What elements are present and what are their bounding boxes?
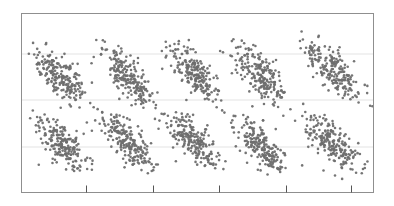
data-point	[52, 67, 55, 70]
data-point	[35, 57, 38, 60]
data-point	[364, 167, 367, 170]
data-point	[143, 86, 146, 89]
data-point	[311, 139, 314, 142]
data-point	[119, 60, 122, 63]
data-point	[213, 89, 216, 92]
data-point	[133, 87, 136, 90]
data-point	[340, 166, 343, 169]
data-point	[175, 111, 178, 114]
data-point	[207, 161, 210, 164]
data-point	[52, 90, 55, 93]
data-point	[133, 66, 136, 69]
data-point	[74, 76, 77, 79]
data-point	[203, 157, 206, 160]
data-point	[321, 135, 324, 138]
data-point	[259, 163, 262, 166]
data-point	[207, 134, 210, 137]
data-point	[44, 148, 47, 151]
data-point	[204, 70, 207, 73]
data-point	[68, 66, 71, 69]
data-point	[67, 162, 70, 165]
data-point	[270, 158, 273, 161]
data-point	[359, 153, 362, 156]
data-point	[122, 141, 125, 144]
data-point	[308, 50, 311, 53]
data-point	[154, 107, 157, 110]
data-point	[192, 126, 195, 129]
data-point	[259, 126, 262, 129]
data-point	[130, 130, 133, 133]
data-point	[309, 57, 312, 60]
data-point	[121, 71, 124, 74]
data-point	[183, 144, 186, 147]
data-point	[39, 116, 42, 119]
data-point	[202, 151, 205, 154]
data-point	[115, 53, 118, 56]
data-point	[59, 106, 62, 109]
data-point	[50, 64, 53, 67]
data-point	[128, 118, 131, 121]
data-point	[337, 60, 340, 63]
data-point	[257, 57, 260, 60]
data-point	[56, 62, 59, 65]
data-point	[55, 161, 58, 164]
data-point	[51, 51, 54, 54]
data-point	[78, 106, 81, 109]
data-point	[273, 89, 276, 92]
data-point	[327, 139, 330, 142]
data-point	[346, 74, 349, 77]
data-point	[32, 42, 35, 45]
data-point	[241, 126, 244, 129]
data-point	[154, 118, 157, 121]
data-point	[116, 85, 119, 88]
data-point	[245, 136, 248, 139]
data-point	[113, 116, 116, 119]
data-point	[271, 151, 274, 154]
data-point	[324, 139, 327, 142]
data-point	[330, 55, 333, 58]
data-point	[109, 73, 112, 76]
data-point	[38, 62, 41, 65]
data-point	[37, 121, 40, 124]
data-point	[332, 51, 335, 54]
data-point	[347, 82, 350, 85]
data-point	[122, 158, 125, 161]
data-point	[91, 81, 94, 84]
data-point	[206, 97, 209, 100]
data-point	[140, 136, 143, 139]
data-point	[279, 161, 282, 164]
data-point	[323, 83, 326, 86]
data-point	[65, 158, 68, 161]
data-point	[37, 54, 40, 57]
data-point	[340, 65, 343, 68]
data-point	[345, 162, 348, 165]
data-point	[156, 91, 159, 94]
data-point	[135, 70, 138, 73]
data-point	[143, 99, 146, 102]
data-point	[249, 71, 252, 74]
data-point	[254, 84, 257, 87]
data-point	[62, 154, 65, 157]
data-point	[324, 130, 327, 133]
data-point	[165, 46, 168, 49]
data-point	[140, 149, 143, 152]
data-point	[79, 96, 82, 99]
data-point	[280, 89, 283, 92]
data-point	[209, 78, 212, 81]
data-point	[270, 161, 273, 164]
data-point	[366, 160, 369, 163]
data-point	[172, 135, 175, 138]
data-point	[350, 84, 353, 87]
data-point	[264, 154, 267, 157]
data-point	[256, 156, 259, 159]
data-point	[41, 142, 44, 145]
data-point	[54, 76, 57, 79]
data-point	[181, 53, 184, 56]
data-point	[108, 135, 111, 138]
data-point	[338, 145, 341, 148]
data-point	[167, 114, 170, 117]
data-point	[254, 88, 257, 91]
data-point	[314, 54, 317, 57]
data-point	[237, 52, 240, 55]
data-point	[56, 124, 59, 127]
